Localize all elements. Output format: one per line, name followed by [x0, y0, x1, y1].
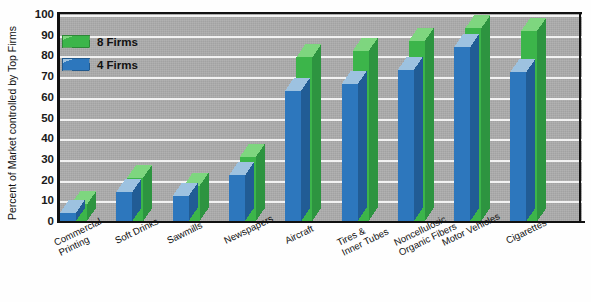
x-axis-category-labels: CommercialPrintingSoft DrinksSawmillsNew… [0, 0, 591, 302]
label-line-1: Newspapers [222, 213, 275, 246]
label-line-1: Cigarettes [504, 217, 548, 246]
x-category-label-0: CommercialPrinting [52, 216, 108, 258]
chart-figure: 1009080706050403020100 Percent of Market… [0, 0, 591, 302]
x-category-label-1: Soft Drinks [113, 215, 160, 245]
x-category-label-3: Newspapers [222, 213, 275, 246]
label-line-1: Sawmills [165, 219, 204, 245]
x-category-label-5: Tires &Inner Tubes [335, 216, 390, 258]
x-category-label-4: Aircraft [283, 223, 315, 246]
x-category-label-8: Cigarettes [504, 217, 548, 246]
label-line-1: Aircraft [283, 223, 315, 246]
x-category-label-2: Sawmills [165, 219, 204, 245]
label-line-1: Soft Drinks [113, 215, 160, 245]
